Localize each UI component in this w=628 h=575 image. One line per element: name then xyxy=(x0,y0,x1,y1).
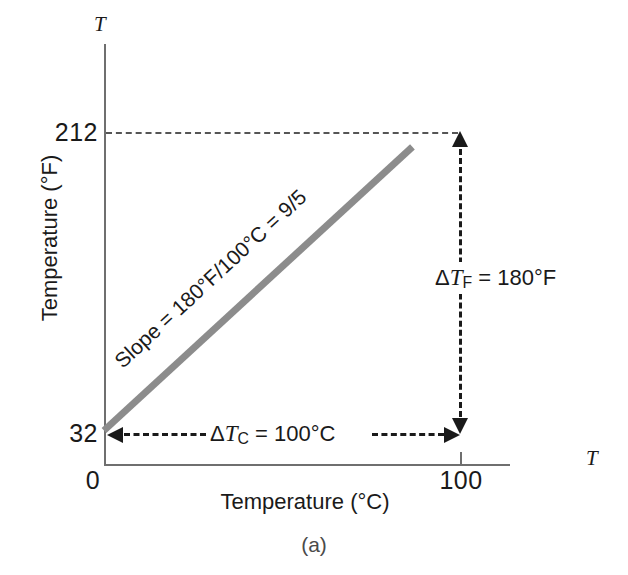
figure-caption: (a) xyxy=(0,533,628,557)
delta-tf-variable: T xyxy=(450,264,463,290)
conversion-line xyxy=(102,144,415,433)
delta-tf-value: = 180°F xyxy=(472,265,556,290)
delta-tf-delta-symbol: Δ xyxy=(435,265,450,290)
delta-tc-arrow-left-icon xyxy=(107,427,123,443)
figure-container: T T 212 32 0 100 Slope = 180°F/100°C = 9… xyxy=(0,0,628,575)
delta-tc-arrow-right-icon xyxy=(444,427,460,443)
y-axis-variable-label: T xyxy=(94,12,106,37)
delta-tc-measure-line-left xyxy=(124,433,206,436)
delta-tc-delta-symbol: Δ xyxy=(210,421,225,446)
x-tick-label-0: 0 xyxy=(78,466,108,495)
gridline-dashed-212 xyxy=(106,132,458,134)
delta-tf-subscript: F xyxy=(463,274,473,291)
slope-annotation: Slope = 180°F/100°C = 9/5 xyxy=(110,185,311,373)
delta-tc-annotation: ΔTC = 100°C xyxy=(206,420,339,448)
y-tick-label-32: 32 xyxy=(30,419,98,448)
y-axis xyxy=(104,44,106,466)
delta-tc-value: = 100°C xyxy=(249,421,335,446)
x-axis-title: Temperature (°C) xyxy=(140,489,470,515)
y-axis-title: Temperature (°F) xyxy=(37,128,63,348)
delta-tf-annotation: ΔTF = 180°F xyxy=(432,262,559,294)
x-tick-mark-100 xyxy=(460,452,462,465)
delta-tc-measure-line-right xyxy=(372,433,444,436)
delta-tc-subscript: C xyxy=(238,430,249,447)
delta-tc-variable: T xyxy=(225,420,238,446)
x-axis-variable-label: T xyxy=(586,446,598,471)
